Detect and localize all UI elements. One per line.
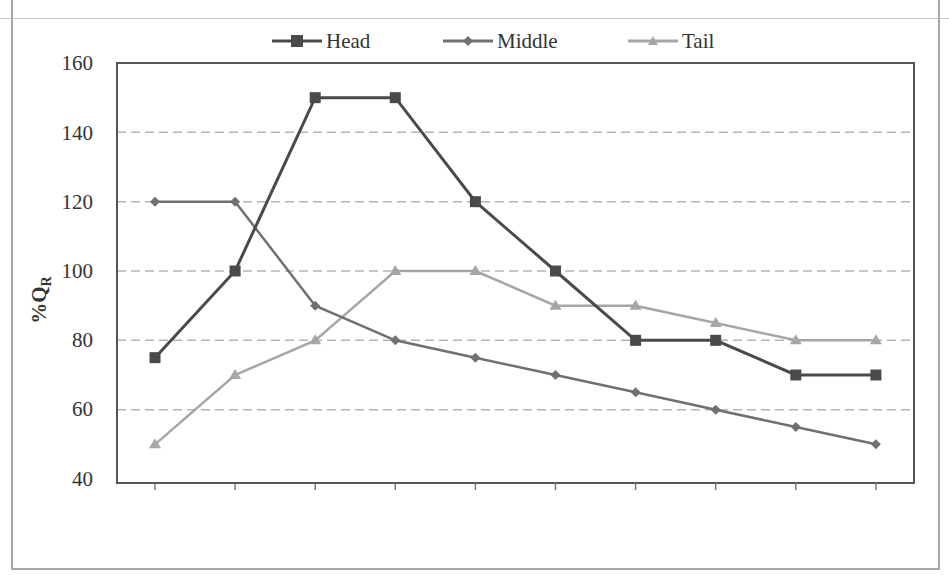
legend: Head } Middle Tail — [272, 29, 715, 53]
legend-label-head: Head — [326, 29, 371, 53]
line-chart: 160 140 120 100 80 60 40 %QR Head } Midd… — [0, 0, 949, 586]
y-tick-label: 80 — [72, 328, 93, 352]
y-axis-title-subscript: R — [39, 275, 54, 286]
y-tick-label: 120 — [62, 190, 94, 214]
y-tick-label: 160 — [62, 51, 94, 75]
y-tick-label: 100 — [62, 259, 94, 283]
y-tick-label: 40 — [72, 467, 93, 491]
square-marker-icon — [310, 92, 321, 103]
square-marker-icon — [630, 335, 641, 346]
legend-label-tail: Tail — [682, 29, 715, 53]
y-axis-title-main: %Q — [27, 286, 51, 323]
x-axis-ticks — [155, 483, 876, 490]
y-tick-label: 60 — [72, 397, 93, 421]
square-marker-icon — [470, 196, 481, 207]
diamond-marker-icon — [551, 370, 561, 380]
square-marker-icon — [790, 370, 801, 381]
diamond-marker-icon — [791, 422, 801, 432]
square-marker-icon — [150, 352, 161, 363]
legend-item-tail: Tail — [628, 29, 715, 53]
square-marker-icon — [550, 266, 561, 277]
legend-item-head: Head } — [272, 29, 371, 53]
diamond-marker-icon — [871, 439, 881, 449]
diamond-marker-icon — [470, 353, 480, 363]
diamond-marker-icon — [150, 197, 160, 207]
square-marker-icon — [390, 92, 401, 103]
y-axis-tick-labels: 160 140 120 100 80 60 40 — [62, 51, 94, 491]
square-marker-icon — [291, 35, 303, 47]
y-tick-label: 140 — [62, 121, 94, 145]
square-marker-icon — [230, 266, 241, 277]
series-line — [155, 271, 876, 444]
legend-item-middle: Middle — [443, 29, 558, 53]
square-marker-icon — [710, 335, 721, 346]
diamond-marker-icon — [390, 335, 400, 345]
y-axis-title: %QR — [27, 275, 54, 323]
legend-label-middle: Middle — [497, 29, 558, 53]
svg-text:%QR: %QR — [27, 275, 54, 323]
square-marker-icon — [870, 370, 881, 381]
diamond-marker-icon — [463, 36, 473, 46]
diamond-marker-icon — [711, 405, 721, 415]
diamond-marker-icon — [631, 387, 641, 397]
series-head — [150, 92, 882, 380]
